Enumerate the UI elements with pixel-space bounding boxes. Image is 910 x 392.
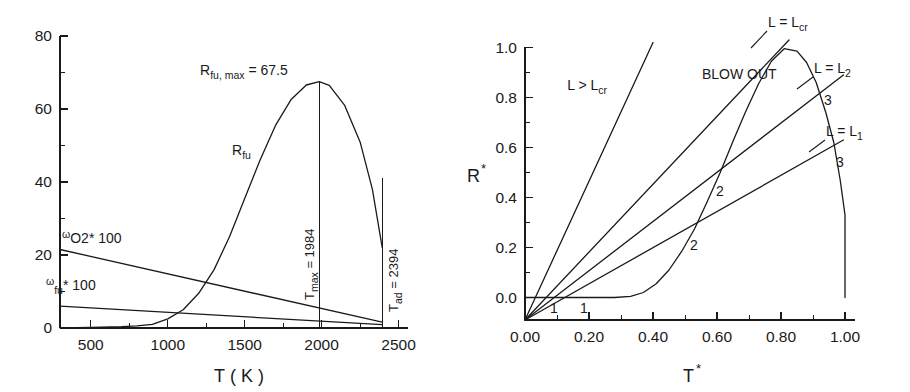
chart-panel-right: 0.0 0.2 0.4 0.6 0.8 1.0 0.00 0.20 (455, 0, 910, 392)
annot-tmax-base: T (302, 292, 317, 300)
left-xtick-label-1500: 1500 (227, 336, 262, 353)
svg-text:L = L2: L = L2 (814, 60, 851, 79)
right-xtick-label-100: 1.00 (830, 328, 861, 345)
point-label-2a: 2 (690, 237, 698, 253)
annotation-rfu: Rfu (232, 142, 251, 161)
right-ytick-label-02: 0.2 (495, 239, 517, 256)
left-ytick-label-80: 80 (35, 27, 53, 44)
right-xtick-label-040: 0.40 (638, 328, 669, 345)
svg-text:Rfu: Rfu (232, 142, 251, 161)
right-xtick-label-060: 0.60 (702, 328, 733, 345)
svg-text:Rfu, max = 67.5: Rfu, max = 67.5 (200, 62, 288, 81)
annot-tad-sub: ad (392, 292, 404, 304)
line-L-eq-Lcr (525, 40, 789, 320)
leader-l-eq-lcr (751, 31, 767, 48)
left-x-ticks (91, 320, 399, 328)
svg-text:Tmax = 1984: Tmax = 1984 (302, 228, 320, 300)
annotation-omega-o2: ωO2* 100 (62, 228, 122, 246)
annotation-tad: Tad = 2394 (386, 249, 404, 312)
right-y-axis-title: R * (467, 161, 486, 186)
curve-rfu (60, 82, 382, 328)
annotation-l-gt-lcr: L > Lcr (567, 77, 607, 96)
right-chart-svg: 0.0 0.2 0.4 0.6 0.8 1.0 0.00 0.20 (455, 0, 910, 392)
figure-root: 0 20 40 60 80 500 1000 1500 2000 25 (0, 0, 910, 392)
annot-tmax-sub: max (308, 271, 320, 292)
right-ytick-label-10: 1.0 (495, 39, 517, 56)
svg-text:Tad = 2394: Tad = 2394 (386, 249, 404, 312)
leader-l-eq-l1 (809, 140, 825, 152)
right-x-axis-title: T * (683, 361, 701, 386)
left-xtick-label-1000: 1000 (151, 336, 186, 353)
annotation-l-eq-l2: L = L2 (814, 60, 851, 79)
point-label-2b: 2 (716, 183, 724, 199)
right-xaxis-title-star: * (696, 361, 701, 376)
leader-l-eq-l2 (797, 77, 813, 89)
annot-tmax-rest: = 1984 (302, 228, 317, 272)
annot-leqlcr-sub: cr (799, 21, 808, 33)
right-ytick-label-04: 0.4 (495, 189, 517, 206)
curve-omega-fu (60, 306, 382, 325)
annot-rfu-max-rest: = 67.5 (245, 62, 288, 78)
svg-text:L = L1: L = L1 (826, 123, 863, 142)
annot-omega-fu-sub: fu (54, 284, 63, 296)
annot-leql2-base: L = L (814, 60, 845, 76)
annotation-l-eq-lcr: L = Lcr (768, 14, 808, 33)
left-ytick-label-0: 0 (43, 319, 52, 336)
annotation-omega-fu: ωfu* 100 (46, 275, 96, 296)
left-ytick-label-60: 60 (35, 100, 53, 117)
svg-text:L = Lcr: L = Lcr (768, 14, 808, 33)
annot-rfu-max-base: R (200, 62, 210, 78)
svg-text:L > Lcr: L > Lcr (567, 77, 607, 96)
annot-omega-o2-rest: * 100 (89, 230, 122, 246)
annot-rfu-base: R (232, 142, 242, 158)
line-L-eq-L1 (525, 140, 843, 320)
annot-lgtlcr-sub: cr (598, 84, 607, 96)
annot-lgtlcr-base: L > L (567, 77, 598, 93)
curve-omega-o2 (60, 250, 382, 323)
right-xtick-label-020: 0.20 (574, 328, 605, 345)
annotation-l-eq-l1: L = L1 (826, 123, 863, 142)
point-label-1b: 1 (580, 300, 588, 316)
annotation-blow-out: BLOW OUT (702, 66, 777, 82)
chart-panel-left: 0 20 40 60 80 500 1000 1500 2000 25 (0, 0, 455, 392)
annot-leql1-base: L = L (826, 123, 857, 139)
annotation-rfu-max: Rfu, max = 67.5 (200, 62, 288, 81)
annot-leqlcr-base: L = L (768, 14, 799, 30)
annot-tad-rest: = 2394 (386, 249, 401, 293)
annot-omega-o2-sub: O2 (70, 230, 89, 246)
point-label-3a: 3 (836, 154, 844, 170)
annot-leql1-sub: 1 (857, 130, 863, 142)
right-yaxis-title-star: * (481, 161, 486, 176)
left-xtick-label-500: 500 (78, 336, 104, 353)
point-label-3b: 3 (824, 92, 832, 108)
right-ytick-label-08: 0.8 (495, 89, 517, 106)
point-label-1a: 1 (550, 300, 558, 316)
right-ytick-label-06: 0.6 (495, 139, 517, 156)
left-x-axis-title: T ( K ) (214, 366, 264, 386)
annot-rfu-max-sub: fu, max (210, 69, 245, 81)
annot-omega-fu-rest: * 100 (63, 277, 96, 293)
left-xtick-label-2000: 2000 (304, 336, 339, 353)
annot-rfu-sub: fu (242, 149, 251, 161)
right-xtick-label-000: 0.00 (510, 328, 541, 345)
annot-tad-base: T (386, 304, 401, 312)
line-L-eq-L2 (525, 75, 843, 320)
annot-omega-fu-symbol: ω (46, 275, 54, 287)
left-xaxis-title-T: T (214, 366, 225, 386)
svg-text:ωO2* 100: ωO2* 100 (62, 228, 122, 246)
left-xtick-label-2500: 2500 (381, 336, 416, 353)
right-ytick-label-0: 0.0 (495, 289, 517, 306)
left-ytick-label-20: 20 (35, 246, 53, 263)
annot-leql2-sub: 2 (845, 67, 851, 79)
right-x-ticks (525, 312, 845, 320)
annotation-tmax: Tmax = 1984 (302, 228, 320, 300)
annot-omega-o2-symbol: ω (62, 228, 70, 240)
left-xaxis-title-unit: ( K ) (230, 366, 264, 386)
left-ytick-label-40: 40 (35, 173, 53, 190)
right-xtick-label-080: 0.80 (766, 328, 797, 345)
right-yaxis-title-R: R (467, 166, 480, 186)
right-y-ticks (525, 48, 533, 298)
left-chart-svg: 0 20 40 60 80 500 1000 1500 2000 25 (0, 0, 455, 392)
svg-text:ωfu* 100: ωfu* 100 (46, 275, 96, 296)
right-xaxis-title-T: T (683, 366, 694, 386)
